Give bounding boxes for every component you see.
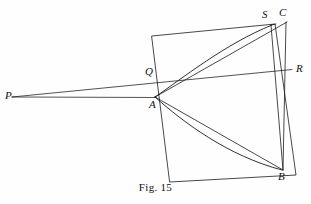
square-outline bbox=[152, 24, 296, 182]
segment-S-to-B bbox=[271, 25, 283, 170]
figure-container: P Q A S C R B Fig. 15 bbox=[0, 0, 311, 204]
figure-caption: Fig. 15 bbox=[0, 181, 311, 193]
label-point-C: C bbox=[279, 7, 286, 18]
segment-C-to-B bbox=[283, 22, 286, 170]
segment-A-to-C bbox=[155, 22, 287, 97]
label-point-P: P bbox=[5, 90, 12, 101]
ray-P-to-A bbox=[12, 97, 156, 98]
curve-A-to-S bbox=[155, 25, 272, 97]
segment-A-to-B-chord bbox=[155, 97, 283, 170]
label-point-S: S bbox=[262, 9, 268, 20]
label-point-Q: Q bbox=[145, 66, 153, 77]
label-point-R: R bbox=[296, 63, 303, 74]
label-point-A: A bbox=[149, 99, 156, 110]
